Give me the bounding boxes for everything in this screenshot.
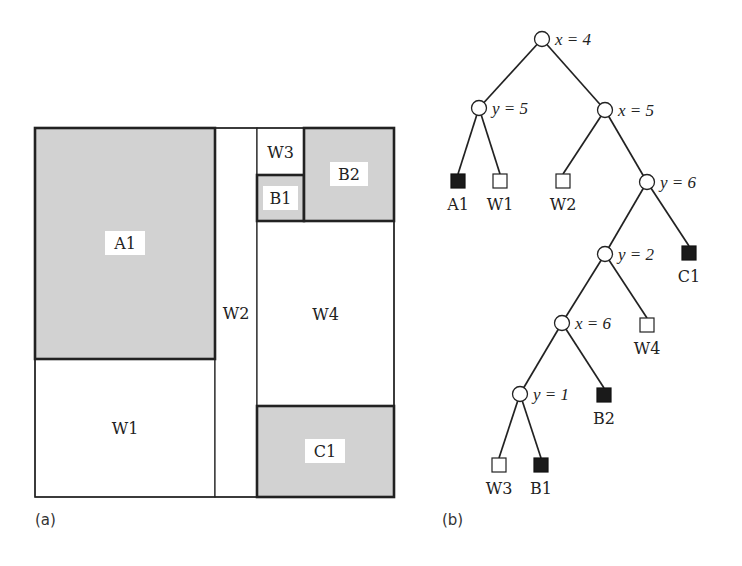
tree-edge xyxy=(479,39,542,108)
region-label: A1 xyxy=(113,234,136,253)
leaf-w2: W2 xyxy=(550,174,577,214)
tree-edge xyxy=(562,254,605,323)
circle-node-icon xyxy=(513,387,528,402)
region-b1: B1 xyxy=(257,175,304,221)
split-label: x = 4 xyxy=(554,30,592,49)
leaf-label: C1 xyxy=(678,267,700,286)
split-node: y = 5 xyxy=(472,99,529,118)
empty-square-icon xyxy=(492,458,506,472)
caption-b: (b) xyxy=(442,511,463,529)
circle-node-icon xyxy=(598,103,613,118)
leaf-label: B2 xyxy=(593,409,615,428)
split-node: x = 4 xyxy=(535,30,592,49)
region-w4: W4 xyxy=(257,221,394,406)
circle-node-icon xyxy=(555,316,570,331)
empty-square-icon xyxy=(493,174,507,188)
filled-square-icon xyxy=(597,388,611,402)
circle-node-icon xyxy=(535,32,550,47)
tree-edge xyxy=(520,323,562,394)
split-label: x = 5 xyxy=(617,101,654,120)
leaf-label: W3 xyxy=(486,479,513,498)
empty-square-icon xyxy=(556,174,570,188)
tree-edge xyxy=(563,110,605,174)
filled-square-icon xyxy=(451,174,465,188)
circle-node-icon xyxy=(472,101,487,116)
leaf-w3: W3 xyxy=(486,458,513,498)
kd-tree-panel: x = 4y = 5x = 5y = 6y = 2x = 6y = 1A1W1W… xyxy=(446,30,700,498)
leaf-label: W4 xyxy=(634,339,661,358)
split-node: x = 6 xyxy=(555,314,612,333)
filled-square-icon xyxy=(682,246,696,260)
tree-edge xyxy=(605,182,647,254)
split-node: x = 5 xyxy=(598,101,655,120)
region-label: C1 xyxy=(314,442,336,461)
region-b2: B2 xyxy=(304,128,394,221)
split-node: y = 6 xyxy=(640,173,697,192)
kd-tree-figure: W1W2W3W4A1B1B2C1 (a) x = 4y = 5x = 5y = … xyxy=(0,0,742,566)
spatial-partition-panel: W1W2W3W4A1B1B2C1 xyxy=(35,128,394,497)
region-c1: C1 xyxy=(257,406,394,497)
empty-square-icon xyxy=(640,318,654,332)
tree-edge xyxy=(542,39,605,110)
caption-a: (a) xyxy=(35,511,56,529)
region-label: W3 xyxy=(267,143,294,162)
leaf-label: W1 xyxy=(487,195,514,214)
circle-node-icon xyxy=(640,175,655,190)
region-label: W1 xyxy=(112,419,139,438)
region-label: W4 xyxy=(312,305,339,324)
region-label: B2 xyxy=(338,165,360,184)
circle-node-icon xyxy=(598,247,613,262)
split-label: y = 5 xyxy=(490,99,528,118)
split-node: y = 1 xyxy=(513,385,570,404)
leaf-w4: W4 xyxy=(634,318,661,358)
leaf-a1: A1 xyxy=(446,174,469,214)
leaf-label: W2 xyxy=(550,195,577,214)
region-a1: A1 xyxy=(35,128,215,359)
region-w3: W3 xyxy=(257,128,304,175)
split-node: y = 2 xyxy=(598,245,655,264)
region-label: W2 xyxy=(223,304,250,323)
split-label: y = 2 xyxy=(616,245,655,264)
split-label: y = 1 xyxy=(531,385,569,404)
leaf-label: B1 xyxy=(530,479,552,498)
leaf-b1: B1 xyxy=(530,458,552,498)
split-label: x = 6 xyxy=(574,314,612,333)
region-w2: W2 xyxy=(215,128,257,497)
leaf-label: A1 xyxy=(446,195,469,214)
tree-edge xyxy=(458,108,479,174)
leaf-c1: C1 xyxy=(678,246,700,286)
tree-edge xyxy=(605,110,647,182)
region-label: B1 xyxy=(270,189,292,208)
region-w1: W1 xyxy=(35,359,215,497)
leaf-w1: W1 xyxy=(487,174,514,214)
tree-edge xyxy=(499,394,520,458)
filled-square-icon xyxy=(534,458,548,472)
leaf-b2: B2 xyxy=(593,388,615,428)
split-label: y = 6 xyxy=(658,173,697,192)
